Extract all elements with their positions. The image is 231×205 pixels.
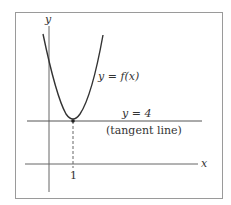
curve-label: y = f(x) bbox=[97, 70, 139, 83]
tangent-annotation-label: (tangent line) bbox=[106, 124, 182, 137]
x-axis-label: x bbox=[201, 157, 208, 170]
y-axis-label: y bbox=[44, 13, 52, 26]
tangent-point bbox=[71, 119, 75, 123]
diagram-frame bbox=[16, 13, 223, 199]
tangent-equation-label: y = 4 bbox=[121, 107, 151, 120]
diagram-canvas: y x 1 y = f(x) y = 4 (tangent line) bbox=[0, 0, 231, 205]
curve-label-rhs: f(x) bbox=[119, 70, 139, 83]
x-tick-label-1: 1 bbox=[70, 169, 77, 182]
curve-label-eq: = bbox=[104, 70, 120, 83]
parabola-curve bbox=[43, 34, 103, 119]
